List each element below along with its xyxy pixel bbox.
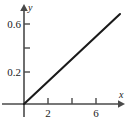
x-axis-label: x xyxy=(118,89,124,100)
x-tick-label-2: 2 xyxy=(45,107,51,119)
y-tick-label-0point6: 0.6 xyxy=(7,18,21,30)
y-axis-label: y xyxy=(27,2,33,13)
plot-area: 2 6 0.2 0.6 x y xyxy=(0,0,128,120)
y-tick-label-0point2: 0.2 xyxy=(7,66,21,78)
chart-figure: 2 6 0.2 0.6 x y xyxy=(0,0,128,120)
x-tick-label-6: 6 xyxy=(93,107,99,119)
